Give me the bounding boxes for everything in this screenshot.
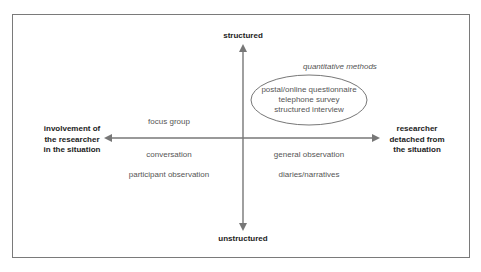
axis-label-left: involvement of the researcher in the sit…: [42, 124, 102, 156]
axis-label-top: structured: [223, 31, 263, 41]
quadrant-item-lower-right: diaries/narratives: [279, 170, 340, 180]
group-label-quantitative-methods: quantitative methods: [303, 62, 377, 72]
ellipse-item: postal/online questionnaire: [261, 85, 356, 95]
ellipse-item: telephone survey: [279, 95, 340, 105]
quadrant-item-lower-left: participant observation: [129, 170, 210, 180]
quadrant-item-upper-left: focus group: [148, 117, 190, 127]
quadrant-item-lower-left: conversation: [146, 150, 191, 160]
quadrant-item-lower-right: general observation: [274, 150, 344, 160]
ellipse-item: structured interview: [274, 105, 343, 115]
axis-label-bottom: unstructured: [218, 234, 267, 244]
axis-label-right: researcher detached from the situation: [382, 124, 452, 156]
